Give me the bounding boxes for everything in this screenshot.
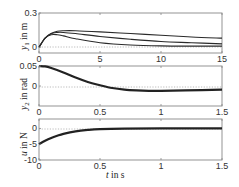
ticks: 05101500.3 [24,8,227,64]
series-line [39,34,222,47]
panel-u: 00.511.5-10-50 u in N [19,119,228,171]
y-axis-label: y2 in rad [19,78,31,111]
y-tick-label: -5 [29,139,37,149]
ticks: 00.511.5-10-50 [24,119,228,171]
x-tick-label: 15 [217,54,227,64]
x-tick-label: 1 [158,161,163,171]
x-tick-label: 0.5 [94,161,107,171]
plot-frame [39,66,222,106]
curves [39,31,222,48]
x-tick-label: 10 [156,54,166,64]
panel-y2: 00.511.500.05 y2 in rad [19,61,228,117]
y-tick-label: 0.05 [19,61,37,71]
y-tick-label: 0 [32,81,37,91]
y-axis-label: y1 in m [19,22,31,51]
curves [39,128,222,144]
x-tick-label: 5 [97,54,102,64]
x-tick-label: 0 [36,161,41,171]
x-tick-label: 1.5 [216,161,229,171]
figure: 05101500.3 y1 in m 00.511.500.05 y2 in r… [0,0,239,187]
y-axis-label: u in N [19,132,29,156]
series-line [39,128,222,144]
panel-y1: 05101500.3 y1 in m [19,8,227,64]
x-tick-label: 0 [36,107,41,117]
y-tick-label: 0 [32,42,37,52]
y-tick-label: 0 [32,123,37,133]
x-tick-label: 1.5 [216,107,229,117]
x-tick-label: 1 [158,107,163,117]
plot-frame [39,119,222,160]
x-tick-label: 0 [36,54,41,64]
x-axis-label: t in s [106,170,125,180]
y-tick-label: 0.3 [24,8,37,18]
x-tick-label: 0.5 [94,107,107,117]
